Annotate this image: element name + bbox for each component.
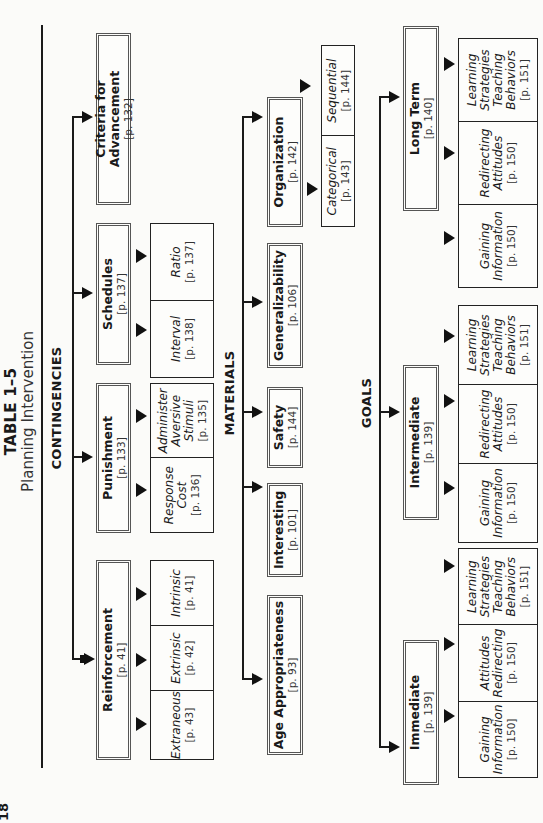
triangle-down-icon <box>136 653 147 667</box>
triangle-down-icon <box>300 79 311 93</box>
cell-ratio: Ratio [p. 137] <box>151 224 213 301</box>
box-page-ref: [p. 137] <box>115 273 127 315</box>
cell-gaining-information: Gaining Information [p. 150] <box>459 464 537 542</box>
box-label: Generalizability <box>272 250 286 361</box>
triangle-down-icon <box>136 717 147 731</box>
triangle-down-icon <box>444 394 455 408</box>
immediate-subtypes: Gaining Information [p. 150] Attitudes R… <box>458 548 538 778</box>
box-label: Immediate <box>408 675 422 750</box>
cell-page-ref: [p. 137] <box>183 241 195 283</box>
triangle-down-icon <box>444 329 455 343</box>
cell-label: Categorical <box>326 147 339 215</box>
box-interesting: Interesting [p. 101] <box>267 483 303 577</box>
cell-label: Gaining Information <box>479 210 505 282</box>
cell-sequential: Sequential [p. 144] <box>322 46 354 137</box>
cell-page-ref: [p. 135] <box>196 400 208 442</box>
cell-page-ref: [p. 150] <box>505 642 517 684</box>
triangle-down-icon <box>444 481 455 495</box>
cell-learning-strategies: Learning Strategies Teaching Behaviors [… <box>459 39 537 122</box>
cell-extraneous: Extraneous [p. 43] <box>151 691 213 759</box>
box-label: Intermediate <box>408 397 422 489</box>
triangle-down-icon <box>136 409 147 423</box>
cell-extrinsic: Extrinsic [p. 42] <box>151 626 213 691</box>
long-term-subtypes: Gaining Information [p. 150] Redirecting… <box>458 38 538 288</box>
arrow-down-icon <box>252 673 263 685</box>
cell-page-ref: [p. 144] <box>339 70 351 112</box>
cell-label: Extrinsic <box>170 632 183 683</box>
goals-trunk <box>379 98 381 748</box>
connector <box>242 411 252 413</box>
box-reinforcement: Reinforcement [p. 41] <box>96 560 131 760</box>
box-label: Reinforcement <box>101 608 115 712</box>
arrow-down-icon <box>252 111 263 123</box>
cell-page-ref: [p. 42] <box>183 641 195 676</box>
cell-page-ref: [p. 138] <box>183 318 195 360</box>
box-organization: Organization [p. 142] <box>267 97 303 227</box>
cell-label: Response Cost <box>163 465 189 525</box>
box-page-ref: [p. 139] <box>422 692 434 734</box>
triangle-down-icon <box>307 182 318 196</box>
intermediate-subtypes: Gaining Information [p. 150] Redirecting… <box>458 305 538 543</box>
arrow-down-icon <box>389 741 400 753</box>
cell-page-ref: [p. 150] <box>505 225 517 267</box>
contingencies-trunk <box>72 116 74 660</box>
arrow-down-icon <box>82 451 93 463</box>
box-immediate: Immediate [p. 139] <box>403 640 439 785</box>
box-criteria-for-advancement: Criteria for Advancement [p. 132] <box>96 33 131 205</box>
cell-label: Intrinsic <box>170 569 183 617</box>
cell-label: Administer Aversive Stimuli <box>157 388 196 454</box>
triangle-down-icon <box>136 587 147 601</box>
cell-categorical: Categorical [p. 143] <box>322 137 354 227</box>
connector <box>72 292 82 294</box>
connector <box>242 678 252 680</box>
box-generalizability: Generalizability [p. 106] <box>267 243 303 368</box>
box-page-ref: [p. 132] <box>122 98 134 140</box>
triangle-down-icon <box>444 57 455 71</box>
box-page-ref: [p. 144] <box>286 407 298 449</box>
triangle-down-icon <box>136 323 147 337</box>
connector <box>242 116 252 118</box>
cell-label: Attitudes Redirecting <box>479 627 505 699</box>
arrow-down-icon <box>82 111 93 123</box>
cell-administer-aversive-stimuli: Administer Aversive Stimuli [p. 135] <box>151 384 213 459</box>
box-page-ref: [p. 142] <box>286 141 298 183</box>
arrow-down-icon <box>252 406 263 418</box>
top-rule <box>41 25 43 768</box>
box-punishment: Punishment [p. 133] <box>96 383 131 533</box>
box-page-ref: [p. 106] <box>286 285 298 327</box>
box-label: Organization <box>272 117 286 208</box>
connector <box>242 301 252 303</box>
materials-trunk <box>242 117 244 680</box>
box-page-ref: [p. 140] <box>422 98 434 140</box>
box-page-ref: [p. 101] <box>286 509 298 551</box>
cell-attitudes-redirecting: Attitudes Redirecting [p. 150] <box>459 625 537 701</box>
cell-label: Learning Strategies Teaching Behaviors <box>466 312 518 378</box>
box-label: Criteria for Advancement <box>94 36 122 202</box>
table-title-block: TABLE 1–5 Planning Intervention <box>2 0 37 823</box>
box-label: Safety <box>272 405 286 450</box>
cell-label: Gaining Information <box>479 467 505 539</box>
cell-gaining-information: Gaining Information [p. 150] <box>459 205 537 287</box>
cell-intrinsic: Intrinsic [p. 41] <box>151 561 213 626</box>
cell-page-ref: [p. 151] <box>518 566 530 608</box>
cell-label: Extraneous <box>170 691 183 759</box>
box-label: Interesting <box>272 491 286 569</box>
box-long-term: Long Term [p. 140] <box>403 26 439 211</box>
cell-page-ref: [p. 143] <box>339 160 351 202</box>
box-label: Schedules <box>101 258 115 330</box>
connector <box>72 116 82 118</box>
cell-page-ref: [p. 41] <box>183 576 195 611</box>
connector <box>72 456 82 458</box>
box-page-ref: [p. 93] <box>286 658 298 693</box>
triangle-down-icon <box>444 231 455 245</box>
arrow-down-icon <box>84 653 95 665</box>
cell-learning-strategies: Learning Strategies Teaching Behaviors [… <box>459 306 537 385</box>
punishment-subtypes: Response Cost [p. 136] Administer Aversi… <box>150 383 214 533</box>
connector <box>379 411 389 413</box>
cell-label: Sequential <box>326 59 339 123</box>
arrow-down-icon <box>82 287 93 299</box>
box-age-appropriateness: Age Appropriateness [p. 93] <box>267 595 303 755</box>
cell-page-ref: [p. 150] <box>505 719 517 761</box>
cell-label: Redirecting Attitudes <box>479 127 505 199</box>
connector <box>379 746 389 748</box>
